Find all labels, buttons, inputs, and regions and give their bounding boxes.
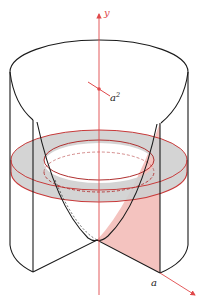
height-label-exponent: 2 [115, 91, 120, 99]
height-point [97, 87, 101, 91]
cylinder-top-ellipse-front-left [10, 72, 33, 120]
solid-of-revolution-diagram: y a2 a [0, 0, 200, 299]
height-label: a2 [110, 91, 120, 103]
x-axis [160, 273, 195, 295]
y-axis-label: y [103, 7, 110, 18]
cylinder-top-ellipse-front-right [161, 72, 188, 123]
radius-label: a [151, 277, 157, 288]
